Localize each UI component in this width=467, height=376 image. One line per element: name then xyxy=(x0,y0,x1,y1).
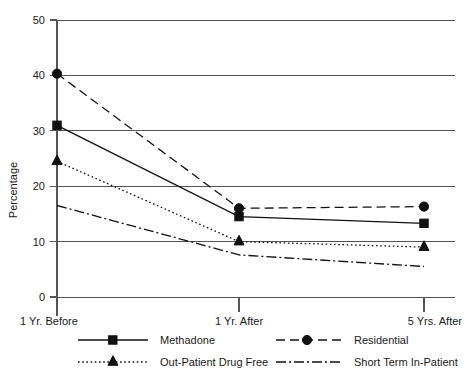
y-tick-labels: 50 40 30 20 10 0 xyxy=(33,14,45,303)
series-outpatient-drug-free-point-1 xyxy=(234,235,244,245)
y-tick-label-30: 30 xyxy=(33,125,45,137)
legend-entry-methadone: Methadone xyxy=(78,334,215,346)
y-axis-title: Percentage xyxy=(7,162,19,218)
series-outpatient-drug-free xyxy=(52,155,429,250)
series-residential xyxy=(52,69,428,213)
x-tick-labels: 1 Yr. Before 1 Yr. After 5 Yrs. After xyxy=(20,315,462,327)
legend-label-outpatient-drug-free: Out-Patient Drug Free xyxy=(160,356,268,368)
series-outpatient-drug-free-point-2 xyxy=(419,241,429,251)
y-tick-label-40: 40 xyxy=(33,69,45,81)
legend-entry-short-term-inpatient: Short Term In-Patient xyxy=(276,356,458,368)
chart-figure: 50 40 30 20 10 0 Percentage 1 Yr. Before… xyxy=(0,0,467,376)
legend-marker-outpatient-triangle xyxy=(108,356,118,366)
series-methadone-point-1 xyxy=(235,212,243,220)
series-residential-point-1 xyxy=(234,204,243,213)
series-methadone-point-2 xyxy=(420,219,428,227)
y-tick-label-50: 50 xyxy=(33,14,45,26)
legend-marker-residential-circle xyxy=(302,335,311,344)
x-tick-label-1yr-after: 1 Yr. After xyxy=(215,315,263,327)
legend-label-residential: Residential xyxy=(354,334,408,346)
x-tickmarks xyxy=(239,297,424,312)
series-residential-point-2 xyxy=(419,202,428,211)
line-chart-canvas: 50 40 30 20 10 0 Percentage 1 Yr. Before… xyxy=(0,0,467,376)
legend-entry-residential: Residential xyxy=(276,334,408,346)
chart-legend: Methadone Residential Out-Patient Drug F… xyxy=(78,334,458,368)
y-tick-label-0: 0 xyxy=(39,291,45,303)
legend-marker-methadone-square xyxy=(109,336,117,344)
series-residential-point-0 xyxy=(52,69,61,78)
legend-label-methadone: Methadone xyxy=(160,334,215,346)
series-residential-line xyxy=(57,74,424,209)
x-tick-label-5yrs-after: 5 Yrs. After xyxy=(408,315,463,327)
legend-label-short-term-inpatient: Short Term In-Patient xyxy=(354,356,458,368)
series-methadone-point-0 xyxy=(53,121,61,129)
x-tick-label-1yr-before: 1 Yr. Before xyxy=(20,315,78,327)
y-tick-label-20: 20 xyxy=(33,180,45,192)
y-tick-label-10: 10 xyxy=(33,236,45,248)
legend-entry-outpatient-drug-free: Out-Patient Drug Free xyxy=(78,356,268,368)
series-outpatient-drug-free-point-0 xyxy=(52,155,62,165)
